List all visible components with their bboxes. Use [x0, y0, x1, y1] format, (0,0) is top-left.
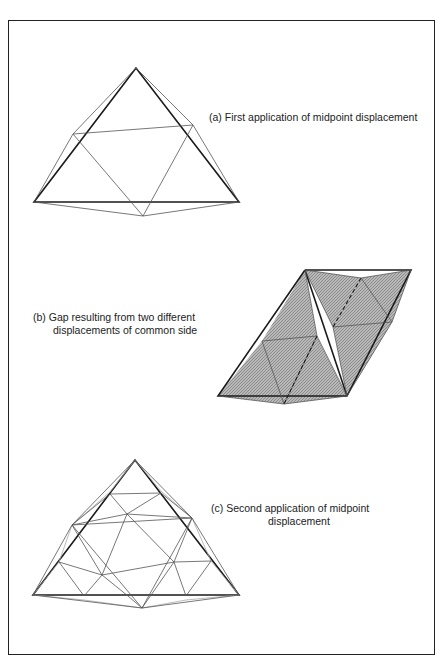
caption-c-line1: (c) Second application of midpoint — [211, 502, 369, 515]
caption-panel-a: (a) First application of midpoint displa… — [209, 111, 417, 124]
caption-c-line2: displacement — [211, 515, 369, 528]
panel-a-triangle — [34, 68, 239, 216]
caption-a-line1: (a) First application of midpoint displa… — [209, 111, 417, 123]
caption-panel-b: (b) Gap resulting from two different dis… — [33, 311, 197, 337]
caption-b-line1: (b) Gap resulting from two different — [33, 311, 197, 324]
panel-b-parallelogram — [218, 270, 411, 404]
panel-c-triangle — [33, 460, 239, 608]
caption-panel-c: (c) Second application of midpoint displ… — [211, 502, 369, 528]
caption-b-line2: displacements of common side — [33, 324, 197, 337]
